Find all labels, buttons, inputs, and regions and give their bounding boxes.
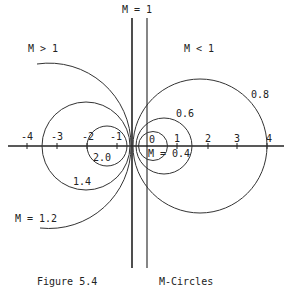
label-m-0-4: M = 0.4 <box>148 148 190 159</box>
tick-label: 0 <box>149 134 155 145</box>
label-m-greater-1: M > 1 <box>28 43 58 54</box>
label-m-0-6: 0.6 <box>176 108 194 119</box>
tick-label: -4 <box>21 131 33 142</box>
label-m-0-8: 0.8 <box>251 89 269 100</box>
tick-label: -1 <box>110 131 122 142</box>
label-m-less-1: M < 1 <box>184 43 214 54</box>
label-m-2-0: 2.0 <box>93 152 111 163</box>
figure-title: M-Circles <box>159 276 213 287</box>
tick-label: -2 <box>82 131 94 142</box>
tick-label: 3 <box>234 133 240 144</box>
m-circles-diagram: -4 -3 -2 -1 0 1 2 3 4 M = 1 M > 1 M < 1 … <box>0 0 292 294</box>
label-m-equals-1: M = 1 <box>122 4 152 15</box>
tick-label: 4 <box>266 133 272 144</box>
label-m-1-2: M = 1.2 <box>15 213 57 224</box>
tick-label: 2 <box>205 133 211 144</box>
label-m-1-4: 1.4 <box>73 176 91 187</box>
tick-label: -3 <box>51 131 63 142</box>
tick-label: 1 <box>174 133 180 144</box>
figure-number: Figure 5.4 <box>37 276 97 287</box>
